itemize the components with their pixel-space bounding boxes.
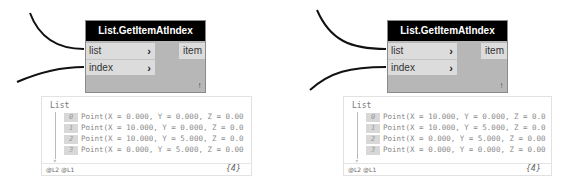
port-label: index	[89, 62, 113, 73]
list-value: Point(X = 0.000, Y = 5.000, Z = 0.00	[81, 145, 244, 154]
node-get-item-at-index-left[interactable]: List.GetItemAtIndex list › index › item …	[85, 20, 206, 93]
list-count: {4}	[526, 164, 541, 173]
list-index: 3	[366, 146, 380, 155]
list-item: 2Point(X = 10.000, Y = 5.000, Z = 0.0	[64, 134, 244, 144]
list-rail	[55, 112, 56, 159]
preview-divider	[344, 163, 551, 164]
list-item: 2Point(X = 0.000, Y = 5.000, Z = 0.00	[366, 134, 546, 144]
output-port-item[interactable]: item	[481, 43, 507, 59]
node-title: List.GetItemAtIndex	[86, 21, 205, 41]
list-value: Point(X = 10.000, Y = 0.000, Z = 0.0	[383, 112, 546, 121]
preview-bubble-right: List ▾ 0Point(X = 10.000, Y = 0.000, Z =…	[343, 96, 552, 176]
list-levels[interactable]: @L2 @L1	[46, 166, 74, 173]
port-label: index	[391, 62, 415, 73]
port-label: list	[89, 45, 101, 56]
list-item: 3Point(X = 0.000, Y = 0.000, Z = 0.00	[366, 145, 546, 155]
list-index: 0	[366, 113, 380, 122]
list-value: Point(X = 10.000, Y = 0.000, Z = 0.0	[81, 123, 244, 132]
preview-list-title: List	[50, 101, 69, 110]
input-port-list[interactable]: list ›	[86, 43, 155, 59]
list-value: Point(X = 10.000, Y = 5.000, Z = 0.0	[81, 134, 244, 143]
list-index: 2	[366, 135, 380, 144]
list-value: Point(X = 0.000, Y = 0.000, Z = 0.00	[81, 112, 244, 121]
list-value: Point(X = 0.000, Y = 0.000, Z = 0.00	[383, 145, 546, 154]
chevron-right-icon: ›	[449, 60, 453, 76]
lacing-indicator: !	[198, 82, 201, 90]
port-label: list	[391, 45, 403, 56]
list-value: Point(X = 10.000, Y = 5.000, Z = 0.0	[383, 123, 546, 132]
input-port-index[interactable]: index ›	[388, 59, 457, 75]
list-item: 1Point(X = 10.000, Y = 0.000, Z = 0.0	[64, 123, 244, 133]
list-rail	[357, 112, 358, 159]
input-port-index[interactable]: index ›	[86, 59, 155, 75]
chevron-right-icon: ›	[449, 43, 453, 59]
input-port-list[interactable]: list ›	[388, 43, 457, 59]
lacing-indicator: !	[500, 82, 503, 90]
list-count: {4}	[226, 164, 241, 173]
list-index: 1	[64, 124, 78, 133]
wire-index-right	[310, 67, 386, 90]
output-port-item[interactable]: item	[179, 43, 205, 59]
list-index: 1	[366, 124, 380, 133]
preview-divider	[42, 163, 251, 164]
node-get-item-at-index-right[interactable]: List.GetItemAtIndex list › index › item …	[387, 20, 508, 93]
list-index: 2	[64, 135, 78, 144]
list-item: 0Point(X = 0.000, Y = 0.000, Z = 0.00	[64, 112, 244, 122]
list-value: Point(X = 0.000, Y = 5.000, Z = 0.00	[383, 134, 546, 143]
wire-list-left	[30, 13, 84, 49]
list-levels[interactable]: @L2 @L1	[348, 166, 376, 173]
list-index: 0	[64, 113, 78, 122]
preview-list-title: List	[352, 101, 371, 110]
list-index: 3	[64, 146, 78, 155]
chevron-right-icon: ›	[147, 60, 151, 76]
wire-index-left	[17, 67, 84, 82]
chevron-right-icon: ›	[147, 43, 151, 59]
preview-bubble-left: List ▾ 0Point(X = 0.000, Y = 0.000, Z = …	[41, 96, 252, 176]
list-item: 1Point(X = 10.000, Y = 5.000, Z = 0.0	[366, 123, 546, 133]
list-item: 3Point(X = 0.000, Y = 5.000, Z = 0.00	[64, 145, 244, 155]
wire-list-right	[317, 10, 386, 49]
node-title: List.GetItemAtIndex	[388, 21, 507, 41]
list-item: 0Point(X = 10.000, Y = 0.000, Z = 0.0	[366, 112, 546, 122]
